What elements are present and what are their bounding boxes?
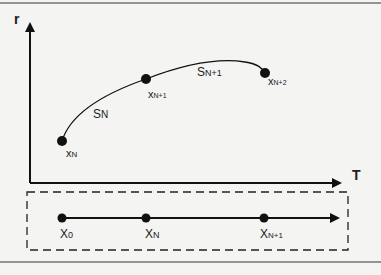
label-x-n: xN — [66, 147, 78, 159]
y-axis-label: r — [14, 11, 20, 27]
timeline-dashed-box — [27, 192, 348, 250]
label-timeline-x0: X0 — [60, 227, 73, 241]
label-x-n-plus-2: xN+2 — [268, 75, 287, 87]
timeline-point-xn — [142, 214, 151, 223]
label-timeline-xn: XN — [145, 227, 160, 241]
point-x-n-plus-1 — [141, 74, 151, 84]
label-x-n-plus-1: xN+1 — [148, 88, 167, 100]
timeline-point-xn-plus-1 — [260, 214, 269, 223]
label-segment-s-n-plus-1: SN+1 — [197, 65, 222, 79]
timeline-point-x0 — [58, 214, 67, 223]
x-axis-label: T — [352, 167, 361, 183]
trajectory-curve — [62, 61, 265, 141]
label-timeline-xn-plus-1: XN+1 — [260, 227, 283, 241]
point-x-n — [57, 136, 67, 146]
label-segment-s-n: SN — [93, 107, 108, 121]
diagram-canvas: r T xN xN+1 xN+2 SN SN+1 X0 XN XN+1 — [0, 0, 381, 275]
